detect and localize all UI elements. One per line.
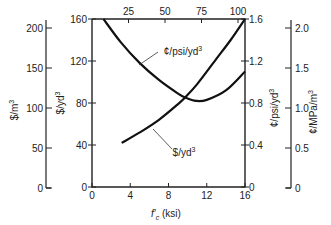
right-tick-label: 1.6 [249, 14, 263, 25]
axes: 0481216f′c (ksi)25507510004080120160$/yd… [8, 6, 319, 221]
top-tick-label: 100 [230, 6, 247, 17]
top-tick-label: 50 [159, 6, 171, 17]
left-outer-tick-label: 200 [26, 23, 43, 34]
chart: 0481216f′c (ksi)25507510004080120160$/yd… [0, 0, 331, 225]
left-tick-label: 160 [70, 14, 87, 25]
left-outer-tick-label: 0 [37, 183, 43, 194]
right-tick-label: 0.4 [249, 140, 263, 151]
right-tick-label: 1.2 [249, 56, 263, 67]
leader-psi [139, 52, 158, 65]
series [103, 19, 245, 143]
right-outer-axis-label: ¢/MPa/m3 [307, 90, 319, 134]
top-tick-label: 25 [123, 6, 135, 17]
left-tick-label: 80 [76, 98, 88, 109]
left-outer-axis-label: $/m3 [8, 100, 20, 121]
left-outer-tick-label: 100 [26, 103, 43, 114]
left-tick-label: 0 [81, 182, 87, 193]
right-outer-tick-label: 2.0 [295, 23, 309, 34]
x-tick-label: 12 [201, 190, 213, 201]
right-tick-label: 0.8 [249, 98, 263, 109]
annotation-psi-label: ¢/psi/yd3 [164, 45, 202, 57]
x-axis-label: f′c (ksi) [151, 208, 181, 221]
left-outer-tick-label: 150 [26, 63, 43, 74]
left-outer-tick-label: 50 [32, 143, 44, 154]
right-inner-axis-label: ¢/psi/yd3 [268, 89, 280, 127]
plot-frame [92, 19, 245, 187]
top-tick-label: 75 [196, 6, 208, 17]
right-tick-label: 0 [249, 182, 255, 193]
left-tick-label: 40 [76, 140, 88, 151]
series-cents-per-psi-yd3 [103, 19, 245, 101]
right-outer-tick-label: 0.5 [295, 143, 309, 154]
x-tick-label: 4 [127, 190, 133, 201]
right-outer-tick-label: 1.5 [295, 63, 309, 74]
series-dollar-per-yd3 [122, 19, 245, 143]
annotation-yd-label: $/yd3 [173, 146, 196, 158]
leader-yd [153, 129, 172, 149]
right-outer-tick-label: 0 [295, 183, 301, 194]
x-tick-label: 8 [166, 190, 172, 201]
x-tick-label: 0 [89, 190, 95, 201]
annotations: ¢/psi/yd3$/yd3 [139, 45, 202, 158]
left-inner-axis-label: $/yd3 [54, 92, 66, 115]
left-tick-label: 120 [70, 56, 87, 67]
